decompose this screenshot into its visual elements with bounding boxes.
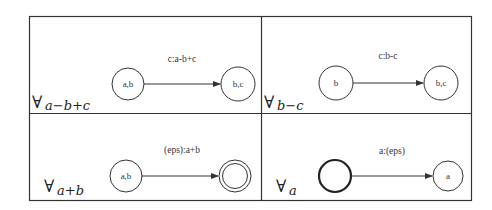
quantifier-subscript: b−c	[277, 98, 304, 113]
state-from-label: a,b	[123, 79, 134, 89]
initial-state-bold	[319, 160, 351, 192]
forall-symbol: ∀	[44, 176, 55, 196]
state-from-label: b	[334, 78, 339, 88]
quantifier-subscript: a−b+c	[45, 98, 91, 113]
automata-diagram: ∀ a−b+c a,b c:a-b+c b,c ∀ b−c b c:b-c b,…	[0, 0, 492, 210]
state-to-label: b,c	[233, 79, 244, 89]
accepting-state-inner	[223, 164, 248, 189]
state-from-label: a,b	[121, 171, 132, 181]
quantifier-subscript: a+b	[57, 183, 84, 198]
panel-a-minus-b-plus-c: ∀ a−b+c a,b c:a-b+c b,c	[32, 54, 255, 113]
quantifier-subscript: a	[289, 183, 297, 198]
panel-a-plus-b: ∀ a+b a,b (eps):a+b	[44, 145, 251, 198]
forall-symbol: ∀	[264, 92, 275, 112]
transition-label: c:a-b+c	[168, 54, 197, 64]
state-to-label: a	[446, 171, 450, 181]
forall-symbol: ∀	[32, 92, 43, 112]
forall-symbol: ∀	[276, 176, 287, 196]
transition-label: a:(eps)	[379, 146, 405, 157]
accepting-state-outer	[219, 160, 251, 192]
panel-b-minus-c: ∀ b−c b c:b-c b,c	[264, 51, 458, 113]
state-to-label: b,c	[436, 78, 447, 88]
panel-a: ∀ a a:(eps) a	[276, 146, 463, 198]
transition-label: c:b-c	[379, 51, 398, 61]
transition-label: (eps):a+b	[164, 145, 200, 156]
